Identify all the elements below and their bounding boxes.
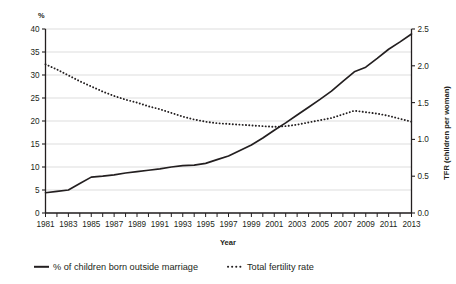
y-axis-left-tick-label: 15 (30, 140, 40, 149)
y-axis-left-tick-label: 40 (30, 25, 40, 34)
y-axis-left-tick-label: 5 (35, 186, 40, 195)
x-axis-tick-label: 1983 (59, 220, 78, 229)
y-axis-right-tick-label: 1.5 (418, 99, 430, 108)
y-axis-right-tick-label: 1.0 (418, 135, 430, 144)
y-axis-unit-label: % (38, 11, 45, 20)
x-axis-tick-label: 1997 (219, 220, 238, 229)
x-axis-tick-label: 2007 (334, 220, 353, 229)
chart-container: 0510152025303540 0.00.51.01.52.02.5 1981… (0, 0, 456, 284)
chart-legend: % of children born outside marriageTotal… (34, 262, 314, 272)
y-axis-left-tick-label: 35 (30, 48, 40, 57)
y-axis-right-tick-label: 0.0 (418, 209, 430, 218)
y-axis-left-tick-label: 25 (30, 94, 40, 103)
y-axis-left-tick-label: 30 (30, 71, 40, 80)
x-axis-tick-label: 2001 (265, 220, 284, 229)
y2-axis-title: TFR (children per woman) (442, 86, 451, 180)
x-axis-tick-label: 1995 (197, 220, 216, 229)
x-axis-tick-label: 1993 (174, 220, 193, 229)
x-axis-tick-label: 1985 (82, 220, 101, 229)
x-axis-tick-label: 1981 (36, 220, 55, 229)
y-axis-left-tick-label: 10 (30, 163, 40, 172)
legend-label: Total fertility rate (247, 262, 314, 272)
y-axis-right-tick-label: 0.5 (418, 172, 430, 181)
line-chart: 0510152025303540 0.00.51.01.52.02.5 1981… (0, 0, 456, 284)
y-axis-left-tick-label: 20 (30, 117, 40, 126)
x-axis-tick-label: 1987 (105, 220, 124, 229)
x-axis-tick-label: 2009 (357, 220, 376, 229)
x-axis-tick-label: 2005 (311, 220, 330, 229)
x-axis-tick-label: 2011 (380, 220, 398, 229)
x-axis-tick-label: 1991 (151, 220, 170, 229)
x-axis-tick-label: 2013 (402, 220, 421, 229)
y-axis-right-tick-label: 2.0 (418, 62, 430, 71)
x-axis-tick-label: 1989 (128, 220, 147, 229)
x-axis-title: Year (220, 238, 236, 247)
x-axis-tick-label: 2003 (288, 220, 307, 229)
x-axis-tick-label: 1999 (242, 220, 261, 229)
legend-label: % of children born outside marriage (53, 262, 198, 272)
y-axis-left-tick-label: 0 (35, 209, 40, 218)
y-axis-right-tick-label: 2.5 (418, 25, 430, 34)
